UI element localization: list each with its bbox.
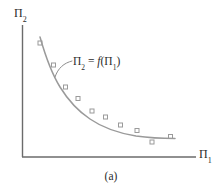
data-point-marker	[150, 140, 154, 144]
annotation-leader-line	[55, 61, 72, 77]
data-point-marker	[104, 115, 108, 119]
data-point-marker	[64, 85, 68, 89]
data-point-marker	[119, 123, 123, 127]
figure-panel-a: Π2 Π1 Π2 = f(Π1) (a)	[0, 0, 222, 194]
data-point-marker	[52, 63, 56, 67]
data-point-marker	[135, 129, 139, 133]
y-axis-label-subscript: 2	[23, 15, 27, 24]
x-axis-label: Π1	[199, 148, 212, 163]
x-axis-label-symbol: Π	[199, 147, 208, 161]
figure-caption: (a)	[0, 171, 222, 183]
fitted-curve	[40, 37, 175, 139]
plot-canvas	[0, 0, 222, 194]
annotation-lhs-subscript: 2	[81, 63, 85, 72]
annotation-arg-symbol: Π	[104, 55, 112, 67]
annotation-equals: =	[85, 55, 97, 67]
data-point-marker	[76, 97, 80, 101]
curve-equation-annotation: Π2 = f(Π1)	[73, 56, 120, 70]
annotation-arg-subscript: 1	[113, 63, 117, 72]
x-axis-label-subscript: 1	[208, 156, 212, 165]
y-axis-label-symbol: Π	[14, 6, 23, 20]
annotation-close-paren: )	[116, 55, 120, 67]
data-point-marker	[90, 109, 94, 113]
y-axis-label: Π2	[14, 7, 27, 22]
